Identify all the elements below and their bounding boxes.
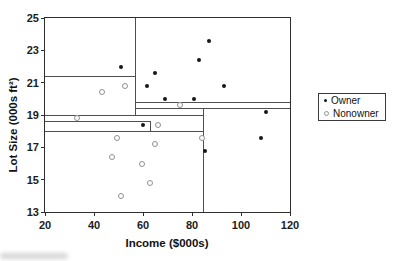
partition-line-horizontal <box>136 108 290 109</box>
y-tick-label: 21 <box>12 77 39 89</box>
x-tick-label: 60 <box>125 219 161 231</box>
y-tick-label: 19 <box>12 109 39 121</box>
partition-line-horizontal <box>45 121 150 122</box>
data-point-nonowner <box>199 135 205 141</box>
y-tick-label: 17 <box>12 141 39 153</box>
data-point-owner <box>141 123 145 127</box>
data-point-nonowner <box>114 135 120 141</box>
y-axis-tick <box>41 50 45 51</box>
data-point-owner <box>145 84 149 88</box>
data-point-owner <box>197 58 201 62</box>
x-axis-tick <box>192 212 193 216</box>
data-point-nonowner <box>118 193 124 199</box>
y-tick-label: 15 <box>12 174 39 186</box>
y-axis-tick <box>41 82 45 83</box>
partition-line-horizontal <box>45 115 204 116</box>
y-axis-tick <box>41 179 45 180</box>
y-tick-label: 25 <box>12 12 39 24</box>
legend-entry-owner: Owner <box>324 95 385 106</box>
partition-line-horizontal <box>136 102 290 103</box>
partition-line-horizontal <box>45 76 136 77</box>
x-axis-tick <box>94 212 95 216</box>
data-point-owner <box>119 65 123 69</box>
nonowner-marker-icon <box>324 111 329 116</box>
legend-label-owner: Owner <box>331 95 360 106</box>
x-tick-label: 40 <box>76 219 112 231</box>
partition-line-horizontal <box>45 131 204 132</box>
owner-marker-icon <box>324 99 327 102</box>
x-tick-label: 120 <box>272 219 308 231</box>
x-axis-tick <box>241 212 242 216</box>
data-point-owner <box>222 84 226 88</box>
partition-line-vertical <box>135 18 136 115</box>
scatter-plot-figure: Lot Size (000s ft²) Income ($000s) Owner… <box>0 0 394 261</box>
y-axis-tick <box>41 147 45 148</box>
y-axis-tick <box>41 212 45 213</box>
legend-entry-nonowner: Nonowner <box>324 108 385 119</box>
data-point-nonowner <box>155 122 161 128</box>
y-tick-label: 23 <box>12 44 39 56</box>
data-point-owner <box>163 97 167 101</box>
x-axis-title: Income ($000s) <box>125 237 208 249</box>
x-tick-label: 20 <box>27 219 63 231</box>
y-tick-label: 13 <box>12 206 39 218</box>
y-axis-title: Lot Size (000s ft²) <box>7 77 19 172</box>
partition-line-vertical <box>203 109 204 212</box>
y-axis-tick <box>41 18 45 19</box>
x-tick-label: 80 <box>174 219 210 231</box>
legend-label-nonowner: Nonowner <box>333 108 379 119</box>
data-point-owner <box>153 71 157 75</box>
data-point-owner <box>264 110 268 114</box>
legend-box: Owner Nonowner <box>318 93 386 121</box>
scan-smudge-artifact <box>0 253 68 259</box>
data-point-nonowner <box>152 141 158 147</box>
x-tick-label: 100 <box>223 219 259 231</box>
x-axis-tick <box>45 212 46 216</box>
x-axis-tick <box>143 212 144 216</box>
x-axis-tick <box>290 212 291 216</box>
data-point-nonowner <box>139 161 145 167</box>
data-point-owner <box>207 39 211 43</box>
data-point-owner <box>259 136 263 140</box>
